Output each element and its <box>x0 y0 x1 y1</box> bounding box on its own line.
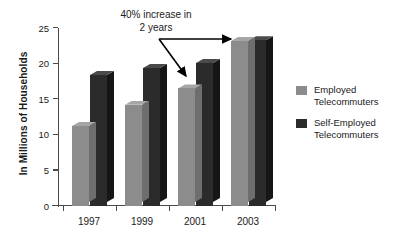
x-tick-0 <box>63 205 64 211</box>
y-tick-0: 0 <box>53 205 58 206</box>
y-tick-label-5: 5 <box>44 164 49 175</box>
legend-label-self-employed-line-1: Self-Employed <box>314 117 376 128</box>
y-tick-label-20: 20 <box>38 58 49 69</box>
x-tick-2 <box>169 205 170 211</box>
y-tick-15: 15 <box>53 98 58 99</box>
legend: Employed Telecommuters Self-Employed Tel… <box>296 84 408 150</box>
y-axis-line <box>58 28 59 207</box>
x-tick-4 <box>275 205 276 211</box>
bar-2003-series-1 <box>231 41 248 206</box>
bar-side-face <box>213 59 220 202</box>
x-label-2003: 2003 <box>237 216 259 227</box>
bar-side-face <box>248 37 255 202</box>
y-tick-25: 25 <box>53 27 58 28</box>
legend-label-employed-line-1: Employed <box>314 84 356 95</box>
y-tick-20: 20 <box>53 63 58 64</box>
bar-side-face <box>89 122 96 202</box>
plot-area: 25 20 15 10 5 0 1997 1999 2001 2003 <box>58 26 276 207</box>
bar-front-face <box>72 126 89 206</box>
legend-swatch-self-employed-icon <box>296 119 307 128</box>
y-tick-label-15: 15 <box>38 93 49 104</box>
x-label-2001: 2001 <box>184 216 206 227</box>
y-tick-5: 5 <box>53 169 58 170</box>
y-tick-label-0: 0 <box>44 200 49 211</box>
bar-side-face <box>266 36 273 202</box>
bar-1997-series-1 <box>72 126 89 206</box>
bar-front-face <box>125 105 142 206</box>
bar-1999-series-1 <box>125 105 142 206</box>
annotation-line-1: 40% increase in <box>96 8 216 21</box>
bar-front-face <box>178 88 195 206</box>
x-tick-1 <box>116 205 117 211</box>
y-axis-title: In Millions of Households <box>18 29 29 199</box>
bar-2001-series-1 <box>178 88 195 206</box>
bar-side-face <box>160 64 167 202</box>
x-label-1997: 1997 <box>78 216 100 227</box>
y-tick-10: 10 <box>53 134 58 135</box>
y-tick-label-10: 10 <box>38 129 49 140</box>
legend-swatch-employed-icon <box>296 86 307 95</box>
annotation-callout: 40% increase in 2 years <box>96 8 216 34</box>
legend-label-self-employed: Self-Employed Telecommuters <box>314 117 378 141</box>
legend-label-employed: Employed Telecommuters <box>314 84 378 108</box>
legend-label-self-employed-line-2: Telecommuters <box>314 129 378 140</box>
x-tick-3 <box>222 205 223 211</box>
bar-side-face <box>195 84 202 202</box>
bar-side-face <box>142 101 149 202</box>
y-tick-label-25: 25 <box>38 22 49 33</box>
telecommuter-bar-chart: In Millions of Households 25 20 15 10 5 … <box>0 0 410 231</box>
bar-side-face <box>107 71 114 202</box>
x-label-1999: 1999 <box>131 216 153 227</box>
annotation-line-2: 2 years <box>96 21 216 34</box>
legend-item-self-employed: Self-Employed Telecommuters <box>296 117 408 141</box>
legend-label-employed-line-2: Telecommuters <box>314 96 378 107</box>
legend-item-employed: Employed Telecommuters <box>296 84 408 108</box>
bar-front-face <box>231 41 248 206</box>
